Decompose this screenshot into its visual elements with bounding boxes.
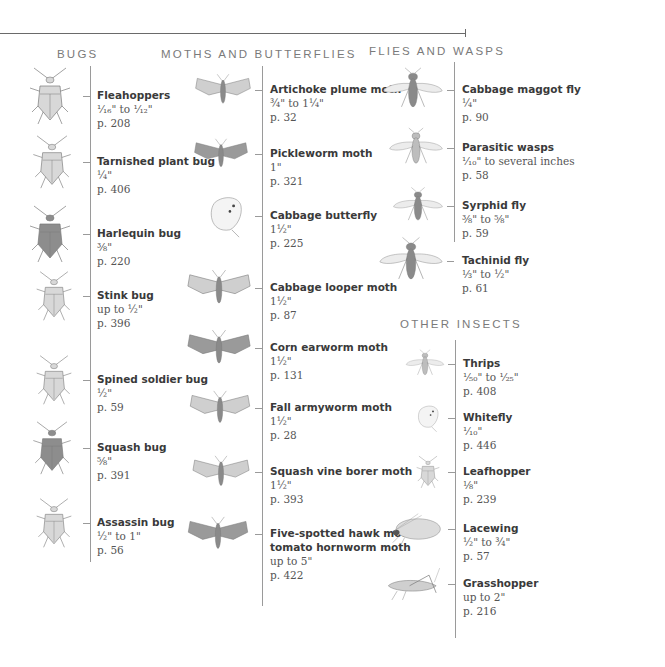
lacewing-icon	[383, 512, 445, 546]
leader-tick	[448, 529, 455, 530]
leader-tick	[448, 472, 455, 473]
insect-size: 1½"	[270, 478, 412, 492]
parasitic-wasp-icon	[388, 126, 444, 170]
insect-name: Stink bug	[97, 288, 154, 302]
leader-tick	[447, 261, 454, 262]
assassin-bug-icon	[28, 493, 80, 553]
insect-size: ¹⁄₁₀"	[463, 424, 512, 438]
top-rule	[0, 33, 466, 34]
insect-size: ⅜" to ⅝"	[462, 212, 526, 226]
moths-column-line	[262, 66, 263, 606]
page-reference: p. 393	[270, 492, 412, 506]
insect-name: Squash bug	[97, 440, 167, 454]
insect-size: ⅛"	[463, 478, 531, 492]
grasshopper-icon	[383, 566, 445, 602]
page-reference: p. 90	[462, 110, 581, 124]
insect-entry: Cabbage maggot fly¼"p. 90	[462, 82, 581, 124]
leader-tick	[255, 472, 262, 473]
pickleworm-moth-icon	[190, 138, 252, 170]
insect-name: Harlequin bug	[97, 226, 181, 240]
page-reference: p. 56	[97, 543, 174, 557]
fleahopper-icon	[20, 66, 80, 126]
page-reference: p. 220	[97, 254, 181, 268]
insect-size: ¼"	[462, 96, 581, 110]
insect-name: Syrphid fly	[462, 198, 526, 212]
insect-size: up to 2"	[463, 590, 538, 604]
insect-name: Fleahoppers	[97, 88, 170, 102]
insect-size: ¼"	[97, 168, 215, 182]
leader-tick	[448, 418, 455, 419]
squash-bug-icon	[24, 418, 80, 478]
insect-size: ½" to ¾"	[463, 535, 518, 549]
page-reference: p. 321	[270, 174, 373, 188]
insect-entry: Lacewing½" to ¾"p. 57	[463, 521, 518, 563]
page-reference: p. 57	[463, 549, 518, 563]
insect-name: Grasshopper	[463, 576, 538, 590]
leafhopper-icon	[411, 450, 445, 494]
page-reference: p. 208	[97, 116, 170, 130]
leader-tick	[83, 380, 90, 381]
heading-flies-wasps: FLIES AND WASPS	[369, 45, 505, 57]
leader-tick	[255, 288, 262, 289]
insect-name: Spined soldier bug	[97, 372, 208, 386]
insect-entry: Cabbage butterfly1½"p. 225	[270, 208, 377, 250]
insect-name: Parasitic wasps	[462, 140, 575, 154]
page-reference: p. 59	[462, 226, 526, 240]
top-rule-cap	[465, 29, 466, 37]
insect-entry: Grasshopperup to 2"p. 216	[463, 576, 538, 618]
page-reference: p. 396	[97, 316, 154, 330]
thrips-icon	[405, 349, 445, 379]
insect-name: Pickleworm moth	[270, 146, 373, 160]
insect-size: 1½"	[270, 354, 388, 368]
cabbage-butterfly-icon	[206, 193, 252, 239]
page-reference: p. 131	[270, 368, 388, 382]
insect-entry: Stink bugup to ½"p. 396	[97, 288, 154, 330]
page-reference: p. 61	[462, 281, 529, 295]
leader-tick	[83, 523, 90, 524]
insect-name: Tachinid fly	[462, 253, 529, 267]
other-column-line	[455, 340, 456, 638]
insect-entry: Harlequin bug⅜"p. 220	[97, 226, 181, 268]
leader-tick	[255, 90, 262, 91]
insect-size: ¹⁄₅₀" to ¹⁄₂₅"	[463, 370, 519, 384]
insect-entry: Squash vine borer moth1½"p. 393	[270, 464, 412, 506]
insect-name: Lacewing	[463, 521, 518, 535]
page-reference: p. 87	[270, 308, 397, 322]
leader-tick	[255, 216, 262, 217]
corn-earworm-moth-icon	[186, 328, 252, 368]
insect-name: Corn earworm moth	[270, 340, 388, 354]
tarnished-plant-bug-icon	[24, 134, 80, 190]
page-reference: p. 58	[462, 168, 575, 182]
leader-tick	[448, 584, 455, 585]
leader-tick	[255, 534, 262, 535]
harlequin-bug-icon	[20, 204, 80, 264]
insect-name: Fall armyworm moth	[270, 400, 392, 414]
insect-size: 1"	[270, 160, 373, 174]
page-reference: p. 391	[97, 468, 167, 482]
heading-other-insects: OTHER INSECTS	[400, 318, 522, 330]
tachinid-fly-icon	[378, 236, 444, 286]
insect-name: Thrips	[463, 356, 519, 370]
page-reference: p. 225	[270, 236, 377, 250]
insect-entry: Squash bug⅝"p. 391	[97, 440, 167, 482]
insect-entry: Parasitic wasps¹⁄₁₀" to several inchesp.…	[462, 140, 575, 182]
insect-name: Cabbage butterfly	[270, 208, 377, 222]
cabbage-maggot-fly-icon	[382, 65, 444, 115]
page-reference: p. 28	[270, 428, 392, 442]
leader-tick	[255, 154, 262, 155]
leader-tick	[447, 206, 454, 207]
hawk-moth-icon	[184, 516, 252, 552]
insect-entry: Syrphid fly⅜" to ⅝"p. 59	[462, 198, 526, 240]
leader-tick	[255, 408, 262, 409]
stink-bug-icon	[28, 270, 80, 322]
insect-entry: Whitefly¹⁄₁₀"p. 446	[463, 410, 512, 452]
insect-entry: Pickleworm moth1"p. 321	[270, 146, 373, 188]
insect-size: ½" to 1"	[97, 529, 174, 543]
page-reference: p. 239	[463, 492, 531, 506]
bugs-column-line	[90, 66, 91, 562]
insect-size: 1½"	[270, 294, 397, 308]
insect-size: ⅓" to ½"	[462, 267, 529, 281]
page-reference: p. 408	[463, 384, 519, 398]
flies-column-line	[454, 62, 455, 242]
leader-tick	[447, 148, 454, 149]
